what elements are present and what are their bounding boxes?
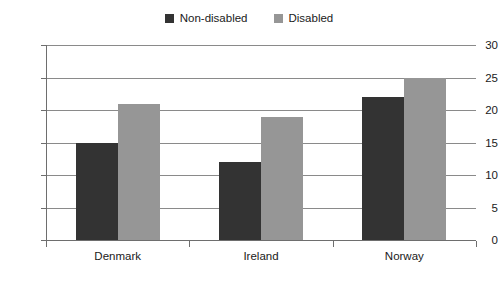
bar-norway-non-disabled — [362, 97, 404, 240]
chart-legend: Non-disabled Disabled — [0, 12, 498, 24]
legend-item-non-disabled: Non-disabled — [165, 12, 248, 24]
bar-group — [189, 45, 332, 240]
bar-denmark-non-disabled — [76, 143, 118, 241]
x-axis-end-tick-mark — [476, 241, 477, 247]
bar-group — [46, 45, 189, 240]
legend-label-disabled: Disabled — [289, 12, 334, 24]
bar-ireland-disabled — [261, 117, 303, 241]
bar-denmark-disabled — [118, 104, 160, 241]
bar-series-layer — [46, 45, 476, 240]
bar-group — [333, 45, 476, 240]
x-axis-tick-mark — [189, 241, 190, 247]
x-axis-tick-mark — [333, 241, 334, 247]
x-axis-category-label-denmark: Denmark — [46, 250, 189, 263]
x-axis-end-tick-mark — [46, 241, 47, 247]
bar-ireland-non-disabled — [219, 162, 261, 240]
bar-chart: Non-disabled Disabled 051015202530 Denma… — [0, 0, 498, 281]
legend-swatch-icon-non-disabled — [165, 14, 174, 23]
bar-norway-disabled — [404, 78, 446, 241]
x-axis-category-label-norway: Norway — [333, 250, 476, 263]
legend-swatch-icon-disabled — [274, 14, 283, 23]
x-axis-category-label-ireland: Ireland — [189, 250, 332, 263]
legend-label-non-disabled: Non-disabled — [180, 12, 248, 24]
x-axis-line — [46, 240, 476, 241]
legend-item-disabled: Disabled — [274, 12, 334, 24]
